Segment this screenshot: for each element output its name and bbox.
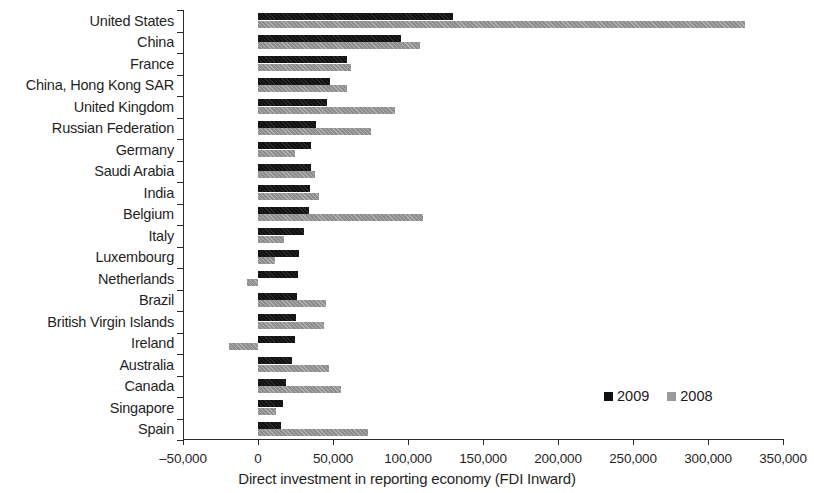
x-tick-label: 150,000 xyxy=(459,451,506,466)
category-tick xyxy=(177,118,183,119)
bar-2009 xyxy=(258,121,316,128)
bar-2009 xyxy=(258,379,286,386)
category-tick xyxy=(177,161,183,162)
category-label: Belgium xyxy=(123,207,174,222)
chart-row: Ireland xyxy=(183,333,783,355)
bar-2008 xyxy=(229,343,258,350)
category-label: Brazil xyxy=(139,293,174,308)
bar-2008 xyxy=(258,429,368,436)
x-tick xyxy=(558,439,559,445)
fdi-inward-bar-chart: United StatesChinaFranceChina, Hong Kong… xyxy=(0,0,814,493)
bar-2008 xyxy=(258,257,275,264)
bar-2009 xyxy=(258,35,401,42)
x-tick xyxy=(708,439,709,445)
category-label: France xyxy=(130,57,174,72)
bar-2009 xyxy=(258,400,283,407)
x-tick xyxy=(483,439,484,445)
bar-2009 xyxy=(258,99,327,106)
chart-row: British Virgin Islands xyxy=(183,311,783,333)
chart-legend: 2009 2008 xyxy=(604,388,713,404)
bar-2009 xyxy=(258,422,281,429)
bar-2008 xyxy=(258,193,319,200)
chart-row: France xyxy=(183,53,783,75)
x-tick-label: 200,000 xyxy=(534,451,581,466)
chart-row: Germany xyxy=(183,139,783,161)
bar-rows: United StatesChinaFranceChina, Hong Kong… xyxy=(183,10,783,440)
category-label: United Kingdom xyxy=(74,100,174,115)
category-tick xyxy=(177,53,183,54)
bar-2008 xyxy=(258,42,420,49)
chart-row: Brazil xyxy=(183,290,783,312)
bar-2008 xyxy=(258,214,423,221)
category-tick xyxy=(177,75,183,76)
category-tick xyxy=(177,376,183,377)
x-axis-title: Direct investment in reporting economy (… xyxy=(0,470,814,487)
category-label: British Virgin Islands xyxy=(47,315,174,330)
bar-2008 xyxy=(258,236,284,243)
category-tick xyxy=(177,354,183,355)
bar-2008 xyxy=(258,300,326,307)
chart-row: United States xyxy=(183,10,783,32)
chart-row: United Kingdom xyxy=(183,96,783,118)
category-label: China, Hong Kong SAR xyxy=(26,78,174,93)
bar-2008 xyxy=(258,64,351,71)
category-label: India xyxy=(144,186,174,201)
legend-label-2008: 2008 xyxy=(680,388,712,404)
category-tick xyxy=(177,311,183,312)
bar-2009 xyxy=(258,293,297,300)
category-label: Spain xyxy=(138,422,174,437)
category-tick xyxy=(177,32,183,33)
category-label: Luxembourg xyxy=(95,250,174,265)
chart-row: Luxembourg xyxy=(183,247,783,269)
category-tick xyxy=(177,10,183,11)
category-tick xyxy=(177,139,183,140)
chart-row: Russian Federation xyxy=(183,118,783,140)
bar-2008 xyxy=(258,171,315,178)
category-label: United States xyxy=(90,14,174,29)
category-tick xyxy=(177,290,183,291)
x-tick-label: 250,000 xyxy=(609,451,656,466)
chart-row: Saudi Arabia xyxy=(183,161,783,183)
bar-2008 xyxy=(258,408,276,415)
bar-2008 xyxy=(258,150,295,157)
category-label: Singapore xyxy=(110,401,174,416)
x-tick-label: 0 xyxy=(254,451,261,466)
bar-2009 xyxy=(258,314,296,321)
bar-2008 xyxy=(247,279,258,286)
x-tick xyxy=(408,439,409,445)
category-tick xyxy=(177,225,183,226)
chart-row: Belgium xyxy=(183,204,783,226)
category-label: Saudi Arabia xyxy=(94,164,174,179)
chart-row: Spain xyxy=(183,419,783,441)
bar-2009 xyxy=(258,228,304,235)
bar-2009 xyxy=(258,56,347,63)
category-label: Ireland xyxy=(131,336,174,351)
bar-2008 xyxy=(258,21,745,28)
category-label: Russian Federation xyxy=(52,121,174,136)
bar-2008 xyxy=(258,386,341,393)
chart-row: Australia xyxy=(183,354,783,376)
category-label: China xyxy=(137,35,174,50)
x-tick xyxy=(633,439,634,445)
category-tick xyxy=(177,247,183,248)
legend-item-2009: 2009 xyxy=(604,388,649,404)
x-tick xyxy=(783,439,784,445)
bar-2009 xyxy=(258,336,295,343)
x-tick-label: –50,000 xyxy=(159,451,206,466)
x-tick-label: 300,000 xyxy=(684,451,731,466)
bar-2009 xyxy=(258,207,309,214)
category-tick xyxy=(177,96,183,97)
bar-2009 xyxy=(258,78,330,85)
x-tick-label: 50,000 xyxy=(313,451,353,466)
category-tick xyxy=(177,397,183,398)
chart-row: Italy xyxy=(183,225,783,247)
bar-2008 xyxy=(258,107,395,114)
bar-2009 xyxy=(258,164,311,171)
x-tick xyxy=(258,439,259,445)
chart-row: Netherlands xyxy=(183,268,783,290)
legend-swatch-2008 xyxy=(667,392,676,401)
chart-row: India xyxy=(183,182,783,204)
category-tick xyxy=(177,419,183,420)
legend-label-2009: 2009 xyxy=(617,388,649,404)
bar-2008 xyxy=(258,365,329,372)
